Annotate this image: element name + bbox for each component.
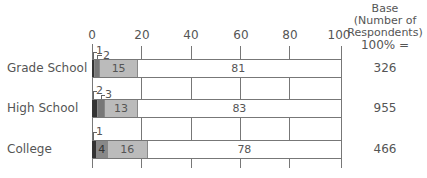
bar-segment-2 [97, 100, 104, 117]
bar-segment-3: 13 [104, 100, 136, 117]
x-tick-40: 40 [183, 28, 198, 42]
bar-segment-4: 83 [137, 100, 341, 117]
bar-segment-3: 16 [107, 141, 147, 158]
row-label-college: College [7, 142, 52, 156]
callout-segment-1: 1 [96, 125, 103, 138]
bar-college: 4 16 78 [92, 140, 341, 159]
base-value-high-school: 955 [340, 101, 427, 115]
bar-segment-4: 78 [147, 141, 341, 158]
row-label-high-school: High School [7, 101, 78, 115]
bar-high-school: 13 83 [92, 99, 341, 118]
bar-segment-2: 4 [96, 141, 107, 158]
base-value-college: 466 [340, 142, 427, 156]
x-tick-20: 20 [134, 28, 149, 42]
x-tick-60: 60 [233, 28, 248, 42]
row-label-grade-school: Grade School [7, 61, 87, 75]
base-header-line: 100% = [340, 39, 427, 51]
bar-segment-3: 15 [99, 60, 136, 77]
base-value-grade-school: 326 [340, 61, 427, 75]
bar-grade-school: 15 81 [92, 59, 341, 78]
bar-segment-4: 81 [137, 60, 339, 77]
base-header: Base (Number of Respondents) 100% = [340, 3, 427, 51]
x-tick-80: 80 [282, 28, 297, 42]
x-tick-0: 0 [88, 28, 96, 42]
